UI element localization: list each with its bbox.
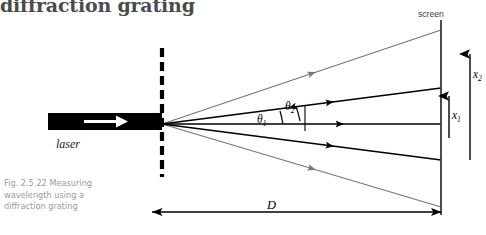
angle-arc-theta1 bbox=[280, 111, 283, 124]
theta1-subscript: 1 bbox=[263, 119, 267, 128]
ray-order1-down bbox=[162, 124, 441, 160]
theta1-label: θ1 bbox=[257, 113, 266, 128]
ray-order2-up bbox=[162, 30, 441, 124]
x2-subscript: 2 bbox=[478, 74, 482, 83]
x2-label: x2 bbox=[472, 68, 482, 83]
distance-label: D bbox=[266, 198, 276, 212]
theta2-subscript: 2 bbox=[291, 106, 295, 115]
screen-label: screen bbox=[418, 9, 444, 19]
ray-order1-up bbox=[162, 88, 441, 124]
laser-label: laser bbox=[56, 137, 80, 151]
x1-label: x1 bbox=[451, 109, 461, 124]
diffraction-diagram: laser screen D θ1 θ2 x1 x2 bbox=[0, 0, 486, 235]
ray-order2-down bbox=[162, 124, 441, 207]
angle-arc-theta2 bbox=[296, 106, 300, 121]
theta2-label: θ2 bbox=[285, 100, 295, 115]
x1-subscript: 1 bbox=[457, 115, 461, 124]
figure-container: diffraction grating Fig. 2.5.22 Measurin… bbox=[0, 0, 486, 235]
